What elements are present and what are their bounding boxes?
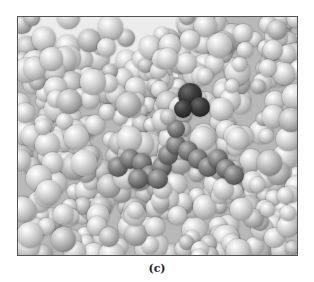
atom-sphere [157,48,177,68]
atom-sphere [145,217,165,237]
atom-sphere [148,169,168,189]
atom-sphere [285,241,298,256]
atom-sphere [116,92,141,117]
atom-sphere [259,129,274,144]
atom-sphere [190,97,210,117]
atom-sphere [227,128,249,150]
atom-sphere [225,79,239,93]
atom-sphere [233,24,253,44]
atom-sphere [259,59,277,77]
atom-sphere [17,222,43,248]
atom-sphere [160,109,176,125]
atom-sphere [99,104,114,119]
atom-sphere [226,239,251,256]
atom-sphere [53,204,74,225]
atom-sphere [98,16,123,41]
atom-sphere [224,165,244,185]
atom-sphere [257,150,282,175]
atom-sphere [274,63,295,84]
atom-sphere [128,169,148,189]
atom-sphere [125,223,147,245]
atom-sphere [210,98,232,120]
atom-sphere [180,30,199,49]
atom-sphere [40,47,64,71]
atom-sphere [127,202,143,218]
atom-sphere [51,227,76,252]
atom-sphere [260,202,275,217]
atom-sphere [80,69,106,95]
atom-sphere [36,180,60,204]
atom-sphere [197,68,213,84]
figure-caption: (c) [0,262,314,275]
atom-sphere [230,198,252,220]
atom-sphere [174,100,192,118]
atom-sphere [168,206,187,225]
atom-sphere [279,108,298,132]
atom-sphere [71,150,97,176]
molecular-model-image [17,16,298,256]
